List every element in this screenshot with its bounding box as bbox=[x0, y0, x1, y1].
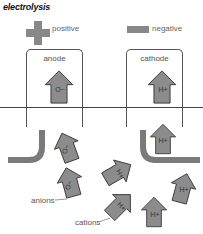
svg-text:H+: H+ bbox=[179, 186, 188, 193]
svg-text:H+: H+ bbox=[158, 137, 167, 144]
svg-text:H+: H+ bbox=[150, 211, 159, 218]
anion-label-anode: O− bbox=[55, 86, 65, 93]
cations-label: cations bbox=[75, 218, 100, 227]
anode-electrode bbox=[8, 130, 42, 160]
anions-label: anions bbox=[31, 196, 55, 205]
cation-label-cathode: H+ bbox=[158, 86, 167, 93]
